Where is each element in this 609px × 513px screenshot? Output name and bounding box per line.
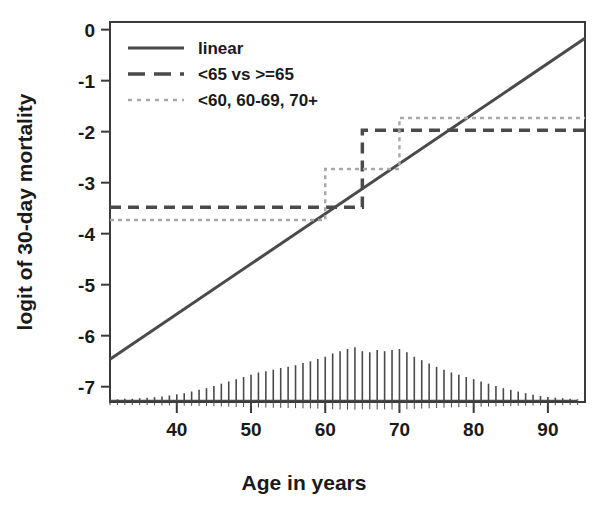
x-tick-label: 90	[537, 419, 558, 440]
y-axis-title: logit of 30-day mortality	[13, 93, 36, 330]
y-tick-label: -2	[78, 122, 95, 143]
plot-canvas: 0-1-2-3-4-5-6-7 405060708090 Age in year…	[0, 0, 609, 513]
x-tick-label: 60	[315, 419, 336, 440]
legend-label: linear	[198, 39, 244, 58]
legend-label: <60, 60-69, 70+	[198, 91, 318, 110]
age-distribution-rug	[110, 347, 578, 400]
series-line-solid	[110, 38, 585, 359]
data-series	[110, 38, 585, 359]
legend: linear<65 vs >=65<60, 60-69, 70+	[128, 39, 318, 110]
x-tick-label: 80	[463, 419, 484, 440]
y-tick-label: -4	[78, 224, 95, 245]
series-line-dotted	[110, 118, 585, 220]
x-axis-title: Age in years	[242, 471, 367, 494]
y-tick-label: -3	[78, 173, 95, 194]
legend-label: <65 vs >=65	[198, 65, 294, 84]
y-tick-label: -1	[78, 71, 95, 92]
y-tick-label: 0	[84, 20, 95, 41]
x-tick-label: 50	[240, 419, 261, 440]
y-tick-label: -6	[78, 326, 95, 347]
x-tick-label: 40	[166, 419, 187, 440]
y-tick-label: -5	[78, 275, 95, 296]
chart-figure: 0-1-2-3-4-5-6-7 405060708090 Age in year…	[0, 0, 609, 513]
x-tick-label: 70	[389, 419, 410, 440]
y-axis: 0-1-2-3-4-5-6-7	[78, 20, 110, 398]
y-tick-label: -7	[78, 377, 95, 398]
x-axis-minor-ticks	[110, 402, 578, 410]
plot-frame	[110, 22, 585, 402]
